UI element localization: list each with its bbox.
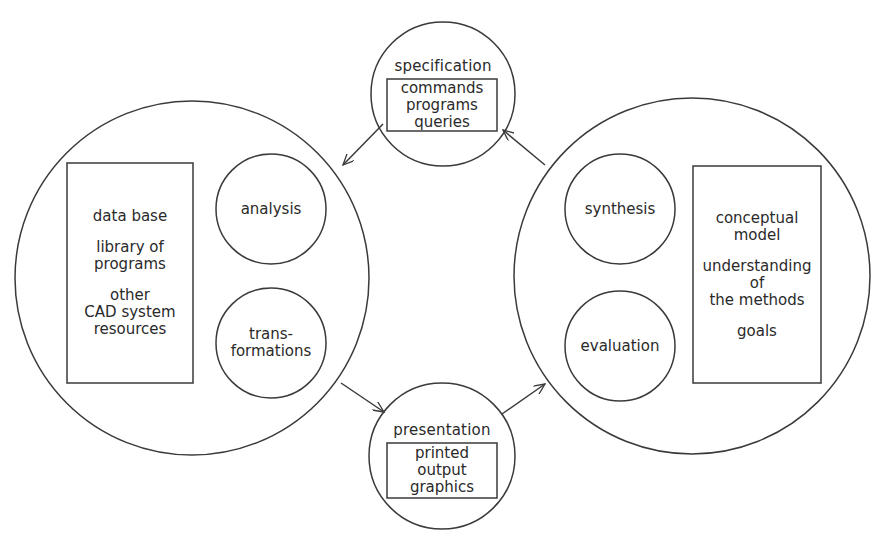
specification-title: specification xyxy=(383,58,503,75)
presentation-line: output xyxy=(417,462,466,479)
arrow-right-to-specification xyxy=(503,130,545,165)
analysis-label: analysis xyxy=(216,154,326,264)
knowledge-item-model: model xyxy=(734,227,781,244)
knowledge-item-understanding: the methods xyxy=(709,292,804,309)
knowledge-item-understanding: understanding xyxy=(702,258,811,275)
arrow-presentation-to-right xyxy=(502,384,545,414)
presentation-box-text: printed output graphics xyxy=(387,443,497,498)
presentation-line: printed xyxy=(415,445,469,462)
arrow-left-to-presentation xyxy=(341,383,384,412)
resources-box-text: data base library of programs other CAD … xyxy=(67,163,193,383)
spec-line: queries xyxy=(414,114,470,131)
evaluation-label: evaluation xyxy=(565,291,675,401)
transformations-text: formations xyxy=(231,343,312,360)
resource-item-other: other xyxy=(110,287,150,304)
analysis-text: analysis xyxy=(241,201,302,218)
resource-item-data-base: data base xyxy=(93,208,167,225)
synthesis-text: synthesis xyxy=(585,201,656,218)
transformations-text: trans- xyxy=(249,326,293,343)
arrow-specification-to-left xyxy=(343,124,383,165)
resource-item-other: CAD system xyxy=(84,304,175,321)
evaluation-text: evaluation xyxy=(581,338,660,355)
resource-item-other: resources xyxy=(94,321,167,338)
presentation-title: presentation xyxy=(382,422,502,439)
spec-line: commands xyxy=(401,80,484,97)
synthesis-label: synthesis xyxy=(565,154,675,264)
transformations-label: trans- formations xyxy=(216,288,326,398)
specification-box-text: commands programs queries xyxy=(387,79,497,131)
knowledge-item-goals: goals xyxy=(737,323,777,340)
resource-item-library: library of xyxy=(96,239,164,256)
knowledge-item-model: conceptual xyxy=(716,210,799,227)
spec-line: programs xyxy=(406,97,478,114)
knowledge-item-understanding: of xyxy=(750,275,764,292)
presentation-line: graphics xyxy=(410,479,474,496)
resource-item-library: programs xyxy=(94,256,166,273)
knowledge-box-text: conceptual model understanding of the me… xyxy=(693,166,821,383)
